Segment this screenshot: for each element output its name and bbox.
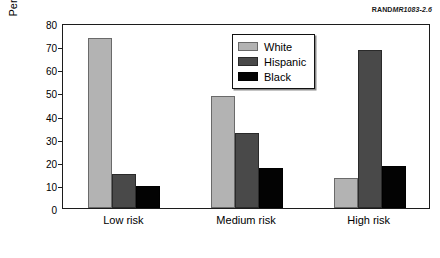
- y-axis-tick-label: 20: [46, 158, 57, 169]
- x-axis-label-high-risk: High risk: [347, 214, 390, 226]
- bar-hispanic-high-risk: [358, 50, 382, 208]
- bar-white-medium-risk: [211, 96, 235, 208]
- y-axis-tick-label: 10: [46, 181, 57, 192]
- bar-hispanic-medium-risk: [235, 133, 259, 208]
- legend-label: Hispanic: [264, 56, 306, 68]
- x-axis-label-medium-risk: Medium risk: [216, 214, 275, 226]
- bar-chart-figure: RANDMR1083-2.6 Percentage of students 01…: [0, 0, 440, 258]
- rand-document-number: MR1083-2.6: [392, 6, 432, 13]
- legend-label: White: [264, 41, 292, 53]
- y-axis-tick-label: 30: [46, 135, 57, 146]
- legend-item-black: Black: [238, 69, 306, 84]
- bar-black-medium-risk: [259, 168, 283, 208]
- y-axis-tick-label: 80: [46, 20, 57, 31]
- rand-source-id: RANDMR1083-2.6: [372, 6, 432, 13]
- y-axis-tick-label: 70: [46, 43, 57, 54]
- bar-hispanic-low-risk: [112, 174, 136, 208]
- legend-item-white: White: [238, 39, 306, 54]
- bar-white-low-risk: [88, 38, 112, 208]
- y-axis-tick-label: 60: [46, 66, 57, 77]
- rand-brand-label: RAND: [372, 6, 393, 13]
- chart-legend: WhiteHispanicBlack: [232, 34, 315, 89]
- bar-black-high-risk: [382, 166, 406, 208]
- legend-swatch-hispanic-icon: [238, 57, 258, 66]
- y-axis-tick-label: 0: [51, 205, 57, 216]
- legend-item-hispanic: Hispanic: [238, 54, 306, 69]
- y-axis-tick-mark: [58, 71, 63, 72]
- y-axis-tick-label: 50: [46, 89, 57, 100]
- y-axis-tick-mark: [58, 118, 63, 119]
- y-axis-tick-mark: [58, 48, 63, 49]
- y-axis-title: Percentage of students: [6, 0, 20, 52]
- legend-swatch-white-icon: [238, 42, 258, 51]
- legend-swatch-black-icon: [238, 72, 258, 81]
- y-axis-tick-mark: [58, 141, 63, 142]
- y-axis-tick-mark: [58, 164, 63, 165]
- y-axis-tick-label: 40: [46, 112, 57, 123]
- y-axis-tick-mark: [58, 94, 63, 95]
- x-axis-label-low-risk: Low risk: [103, 214, 143, 226]
- legend-label: Black: [264, 71, 291, 83]
- bar-white-high-risk: [334, 178, 358, 208]
- y-axis-tick-mark: [58, 187, 63, 188]
- bar-black-low-risk: [136, 186, 160, 208]
